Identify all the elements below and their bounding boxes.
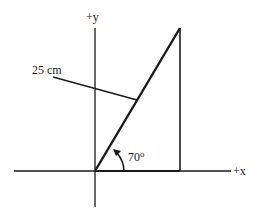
vector-diagram: +y +x 25 cm 70o — [0, 0, 259, 219]
angle-label: 70o — [128, 149, 145, 164]
angle-value: 70 — [128, 150, 140, 164]
angle-arrowhead-icon — [113, 149, 121, 156]
length-label: 25 cm — [32, 63, 62, 77]
y-axis-label: +y — [86, 10, 99, 24]
x-axis-label: +x — [233, 164, 246, 178]
angle-arc — [117, 153, 124, 171]
angle-degree-symbol: o — [140, 149, 145, 159]
